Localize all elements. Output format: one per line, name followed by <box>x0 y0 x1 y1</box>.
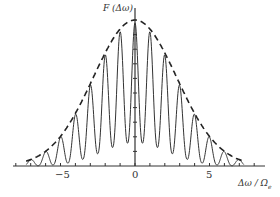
x-tick-label: 5 <box>206 169 212 180</box>
x-tick-label: 0 <box>132 169 138 180</box>
chart-canvas <box>0 0 280 197</box>
x-axis-label: Δω / Ωe <box>238 178 272 190</box>
x-tick-label: −5 <box>55 169 70 180</box>
y-axis-label: F (Δω) <box>103 3 133 13</box>
